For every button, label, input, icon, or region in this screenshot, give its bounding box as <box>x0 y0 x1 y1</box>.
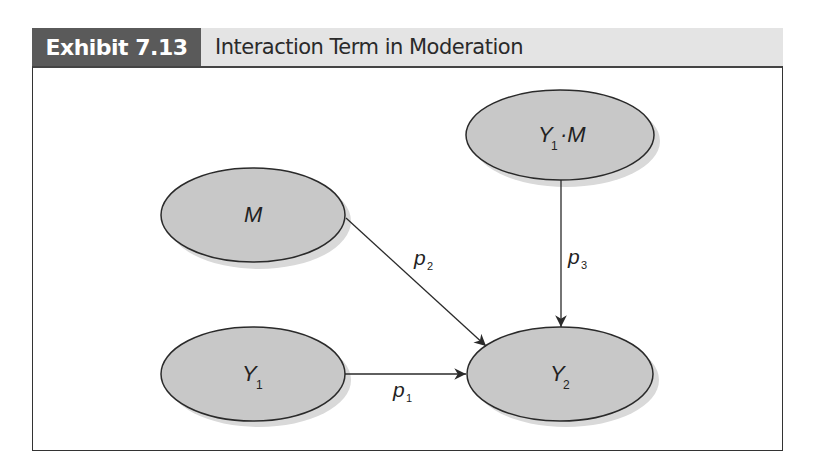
edge-subscript: 2 <box>427 260 433 272</box>
moderation-diagram: Y 1 ·M M Y 1 Y 2 p 1 p 2 p 3 <box>0 0 818 466</box>
edge-label: p <box>567 245 580 268</box>
node-subscript: 1 <box>551 139 558 153</box>
node-subscript: 1 <box>256 378 263 392</box>
edge-subscript: 1 <box>406 392 412 404</box>
node-outcome: Y 2 <box>467 327 659 427</box>
edge-p2: p 2 <box>346 218 486 346</box>
edge-label: p <box>413 246 426 269</box>
edge-p3: p 3 <box>561 180 587 327</box>
node-subscript: 2 <box>563 378 570 392</box>
edge-label: p <box>392 378 405 401</box>
node-predictor: Y 1 <box>161 327 351 427</box>
edge-p1: p 1 <box>345 374 466 404</box>
node-label: M <box>244 202 263 227</box>
node-interaction-term: Y 1 ·M <box>466 90 660 187</box>
edge-subscript: 3 <box>581 259 587 271</box>
node-suffix: ·M <box>560 122 586 147</box>
node-moderator: M <box>161 168 351 269</box>
